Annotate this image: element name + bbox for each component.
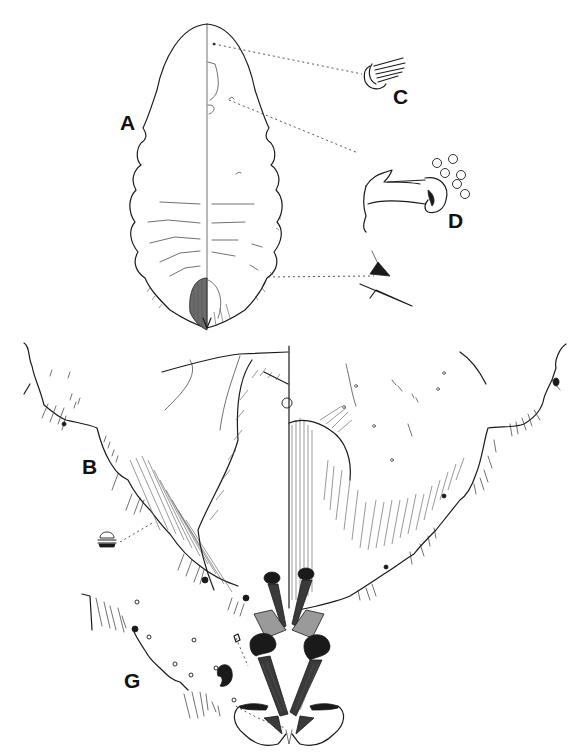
panel-label-c: C [393,86,408,107]
panel-label-a: A [120,112,135,133]
panel-g-anal-lobes [0,0,588,754]
morphology-plate: A B C D G [0,0,588,754]
panel-label-g: G [124,670,140,691]
panel-label-b: B [82,456,97,477]
panel-label-d: D [448,210,463,231]
